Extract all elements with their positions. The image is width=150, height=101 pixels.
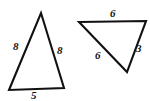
left-triangle-side-label-bottom: 5 bbox=[31, 90, 37, 101]
left-triangle-side-label-left: 8 bbox=[13, 41, 19, 52]
right-triangle-side-label-right: 3 bbox=[136, 43, 142, 54]
right-triangle-side-label-left: 6 bbox=[95, 50, 101, 61]
right-triangle-side-label-top: 6 bbox=[110, 8, 116, 19]
figure-canvas bbox=[0, 0, 150, 101]
geometry-figure: 8 8 5 6 3 6 bbox=[0, 0, 150, 101]
left-triangle-side-label-right: 8 bbox=[57, 45, 63, 56]
